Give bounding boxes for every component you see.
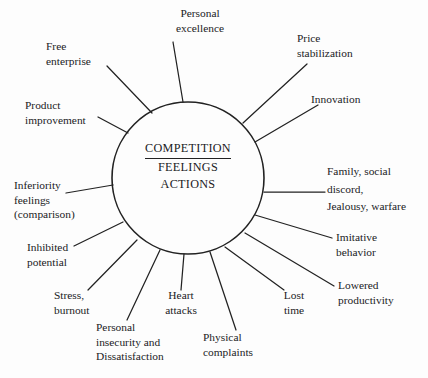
node-heart-attacks-line-1: Heart (155, 288, 207, 303)
node-lowered-productivity-line-1: Lowered (338, 278, 394, 293)
node-stress-burnout: Stress, burnout (54, 288, 89, 317)
node-product-improvement: Product improvement (25, 98, 86, 127)
spoke-personal-excellence (173, 42, 183, 102)
node-family-social-discord: Family, social discord, Jealousy, warfar… (327, 163, 406, 216)
node-lost-time-line-1: Lost (271, 288, 317, 303)
spoke-innovation (255, 105, 318, 142)
node-imitative-behavior-line-1: Imitative (336, 230, 377, 245)
node-lowered-productivity: Lowered productivity (338, 278, 394, 307)
node-inferiority-feelings: Inferiority feelings (comparison) (14, 178, 75, 222)
spoke-heart-attacks (181, 254, 184, 290)
node-personal-insecurity: Personal insecurity and Dissatisfaction (96, 320, 164, 364)
node-heart-attacks: Heart attacks (155, 288, 207, 317)
node-innovation-line-1: Innovation (311, 92, 360, 107)
node-imitative-behavior: Imitative behavior (336, 230, 377, 259)
spoke-inhibited-potential (74, 222, 123, 246)
spoke-lost-time (225, 247, 284, 290)
spoke-product-improvement (98, 117, 128, 133)
node-inhibited-potential-line-1: Inhibited (27, 240, 68, 255)
node-family-social-discord-line-2: discord, (327, 181, 406, 199)
node-stress-burnout-line-1: Stress, (54, 288, 89, 303)
node-personal-excellence: Personal excellence (160, 6, 240, 35)
node-inferiority-feelings-line-1: Inferiority (14, 178, 75, 193)
node-free-enterprise-line-2: enterprise (46, 54, 91, 69)
node-inhibited-potential-line-2: potential (27, 255, 68, 270)
node-inferiority-feelings-line-3: (comparison) (14, 207, 75, 222)
node-imitative-behavior-line-2: behavior (336, 245, 377, 260)
spoke-lowered-productivity (245, 233, 334, 286)
hub-label-group: COMPETITION FEELINGS ACTIONS (112, 140, 264, 194)
node-free-enterprise: Free enterprise (46, 39, 91, 68)
node-innovation: Innovation (311, 92, 360, 107)
spoke-free-enterprise (107, 66, 152, 113)
node-physical-complaints: Physical complaints (203, 330, 253, 359)
hub-title-competition: COMPETITION (145, 140, 231, 159)
node-inhibited-potential: Inhibited potential (27, 240, 68, 269)
hub-label-actions: ACTIONS (112, 176, 264, 194)
node-personal-insecurity-line-2: insecurity and (96, 335, 164, 350)
node-personal-excellence-line-2: excellence (160, 21, 240, 36)
node-family-social-discord-line-1: Family, social (327, 163, 406, 181)
competition-radial-diagram: COMPETITION FEELINGS ACTIONS Personal ex… (0, 0, 428, 378)
node-stress-burnout-line-2: burnout (54, 303, 89, 318)
node-product-improvement-line-1: Product (25, 98, 86, 113)
node-personal-excellence-line-1: Personal (160, 6, 240, 21)
node-lost-time-line-2: time (271, 303, 317, 318)
spoke-imitative-behavior (255, 215, 332, 238)
node-product-improvement-line-2: improvement (25, 113, 86, 128)
node-personal-insecurity-line-1: Personal (96, 320, 164, 335)
node-family-social-discord-line-3: Jealousy, warfare (327, 198, 406, 216)
node-lost-time: Lost time (271, 288, 317, 317)
node-free-enterprise-line-1: Free (46, 39, 91, 54)
node-price-stabilization-line-1: Price (297, 31, 353, 46)
node-inferiority-feelings-line-2: feelings (14, 193, 75, 208)
spoke-price-stabilization (243, 64, 307, 123)
spoke-physical-complaints (210, 252, 236, 330)
hub-label-feelings: FEELINGS (112, 159, 264, 177)
node-lowered-productivity-line-2: productivity (338, 293, 394, 308)
spoke-stress-burnout (88, 240, 137, 290)
node-price-stabilization: Price stabilization (297, 31, 353, 60)
node-personal-insecurity-line-3: Dissatisfaction (96, 349, 164, 364)
node-heart-attacks-line-2: attacks (155, 303, 207, 318)
node-price-stabilization-line-2: stabilization (297, 46, 353, 61)
node-physical-complaints-line-2: complaints (203, 345, 253, 360)
node-physical-complaints-line-1: Physical (203, 330, 253, 345)
